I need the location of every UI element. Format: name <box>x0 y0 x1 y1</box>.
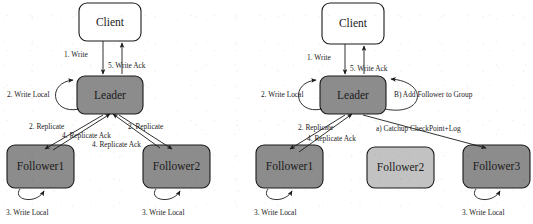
edge-label-add-follower-to-group: B) Add Follower to Group <box>394 90 473 99</box>
left-panel-client-node: Client <box>79 3 141 41</box>
edge-follower2-self-write-local <box>154 189 180 200</box>
edge-label-leader-write-local: 2. Write Local <box>261 90 303 99</box>
client-label: Client <box>96 16 125 28</box>
edge-leader-to-follower1-replicate <box>290 115 345 149</box>
follower2-label: Follower2 <box>377 161 425 173</box>
edge-follower1-self-write-local <box>266 189 292 200</box>
right-panel-client-node: Client <box>322 3 384 44</box>
edge-label-replicate-ack: 4. Replicate Ack <box>307 134 356 143</box>
edge-label-follower1-write-local: 3. Write Local <box>6 208 48 217</box>
edge-label-catchup: a) Catchup CheckPoint+Log <box>376 124 461 133</box>
edge-label-follower3-write-local: 3. Write Local <box>462 208 504 217</box>
diagram-canvas: Client Leader Follower1 Follower2 1. Wri… <box>0 0 533 224</box>
right-panel: Client Leader Follower1 Follower2 Follow… <box>254 3 530 217</box>
edge-label-write: 1. Write <box>64 50 89 59</box>
edge-label-leader-write-local: 2. Write Local <box>7 90 49 99</box>
follower1-label: Follower1 <box>17 160 65 172</box>
client-label: Client <box>339 17 368 29</box>
edge-label-write-ack: 5. Write Ack <box>108 61 146 70</box>
edge-label-follower1-write-local: 3. Write Local <box>254 208 296 217</box>
leader-label: Leader <box>337 89 369 101</box>
edge-label-replicate-right: 2. Replicate <box>128 122 164 131</box>
left-panel-leader-node: Leader <box>77 76 143 114</box>
edge-follower1-self-write-local <box>18 189 44 200</box>
edge-label-follower2-write-local: 3. Write Local <box>142 208 184 217</box>
right-panel-follower2-node: Follower2 <box>367 147 434 188</box>
edge-label-replicate-ack-right: 4. Replicate Ack <box>92 140 141 149</box>
edge-follower3-self-write-local <box>474 189 500 200</box>
edge-label-replicate-ack-left: 4. Replicate Ack <box>62 131 111 140</box>
follower2-label: Follower2 <box>153 160 201 172</box>
left-panel: Client Leader Follower1 Follower2 1. Wri… <box>6 3 210 217</box>
edge-leader-self-write-local <box>56 80 79 110</box>
left-panel-follower2-node: Follower2 <box>143 145 210 188</box>
follower3-label: Follower3 <box>473 160 521 172</box>
edge-label-write: 1. Write <box>307 53 332 62</box>
follower1-label: Follower1 <box>266 160 314 172</box>
right-panel-leader-node: Leader <box>320 76 386 114</box>
replication-diagram-figure: Client Leader Follower1 Follower2 1. Wri… <box>0 0 533 224</box>
right-panel-follower3-node: Follower3 <box>463 145 530 188</box>
right-panel-follower1-node: Follower1 <box>256 145 323 188</box>
left-panel-follower1-node: Follower1 <box>7 145 74 188</box>
leader-label: Leader <box>94 89 126 101</box>
edge-label-write-ack: 5. Write Ack <box>350 64 388 73</box>
edge-label-replicate-left: 2. Replicate <box>29 122 65 131</box>
